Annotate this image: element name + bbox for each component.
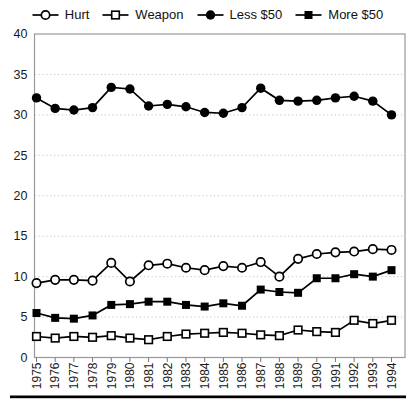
series-less-50-point [163, 100, 172, 109]
series-less-50-point [181, 102, 190, 111]
series-hurt-point [88, 276, 96, 284]
series-weapon-point [201, 329, 209, 337]
series-more-50-point [219, 299, 227, 307]
series-less-50-point [69, 105, 78, 114]
x-tick-label: 1983 [179, 362, 193, 389]
series-more-50-point [275, 288, 283, 296]
series-less-50-point [107, 83, 116, 92]
series-weapon-point [388, 316, 396, 324]
series-more-50-point [313, 274, 321, 282]
x-tick-label: 1976 [48, 362, 62, 389]
series-less-50-point [275, 96, 284, 105]
series-hurt-point [331, 248, 339, 256]
x-tick-label: 1990 [310, 362, 324, 389]
series-more-50-point [388, 266, 396, 274]
series-hurt-point [350, 247, 358, 255]
series-hurt-point [238, 264, 246, 272]
series-hurt-point [182, 264, 190, 272]
series-more-50-point [126, 300, 134, 308]
series-weapon-point [145, 336, 153, 344]
x-tick-label: 1982 [161, 362, 175, 389]
series-more-50-point [294, 289, 302, 297]
x-tick-label: 1975 [30, 362, 44, 389]
series-hurt-point [32, 279, 40, 287]
x-tick-label: 1992 [347, 362, 361, 389]
series-weapon-point [238, 329, 246, 337]
series-more-50-point [51, 314, 59, 322]
y-tick-label: 35 [14, 68, 28, 82]
series-hurt-point [107, 259, 115, 267]
series-weapon-point [182, 330, 190, 338]
series-more-50-point [163, 298, 171, 306]
plot-area: 0510152025303540197519761977197819791980… [0, 0, 415, 404]
series-less-50-point [312, 96, 321, 105]
series-weapon-point [107, 332, 115, 340]
series-hurt-point [51, 276, 59, 284]
x-tick-label: 1986 [235, 362, 249, 389]
series-more-50-point [331, 274, 339, 282]
x-tick-label: 1987 [254, 362, 268, 389]
x-tick-label: 1989 [291, 362, 305, 389]
series-hurt-point [144, 261, 152, 269]
x-tick-label: 1977 [67, 362, 81, 389]
series-weapon-point [126, 334, 134, 342]
y-tick-label: 40 [14, 27, 28, 41]
series-less-50-point [237, 103, 246, 112]
series-hurt-point [294, 255, 302, 263]
x-tick-label: 1984 [198, 362, 212, 389]
series-weapon-point [332, 329, 340, 337]
series-less-50-point [125, 84, 134, 93]
series-more-50-point [369, 273, 377, 281]
series-hurt-point [163, 259, 171, 267]
series-more-50-point [107, 301, 115, 309]
series-less-50-point [88, 103, 97, 112]
x-tick-label: 1993 [366, 362, 380, 389]
y-tick-label: 25 [14, 149, 28, 163]
x-tick-label: 1988 [273, 362, 287, 389]
series-hurt-point [70, 276, 78, 284]
series-weapon-point [220, 329, 228, 337]
line-chart-figure: Hurt Weapon Less $50 More $50 0510152025… [0, 0, 415, 404]
series-weapon-point [350, 316, 358, 324]
series-more-50-point [70, 315, 78, 323]
x-tick-label: 1981 [142, 362, 156, 389]
series-weapon-point [369, 320, 377, 328]
x-tick-label: 1994 [385, 362, 399, 389]
series-less-50-point [144, 101, 153, 110]
series-more-50-point [89, 311, 97, 319]
series-less-50-point [293, 96, 302, 105]
series-hurt-point [387, 246, 395, 254]
series-less-50-point [331, 93, 340, 102]
series-weapon-point [257, 331, 265, 339]
series-hurt-point [257, 258, 265, 266]
series-hurt-point [369, 245, 377, 253]
bottom-rule [10, 396, 406, 399]
series-less-50-point [32, 93, 41, 102]
series-weapon-point [51, 334, 59, 342]
y-tick-label: 10 [14, 270, 28, 284]
series-weapon-point [294, 326, 302, 334]
x-tick-label: 1980 [123, 362, 137, 389]
series-less-50-point [50, 104, 59, 113]
series-weapon-point [276, 332, 284, 340]
series-more-50-point [33, 309, 41, 317]
x-tick-label: 1985 [217, 362, 231, 389]
series-less-50-point [256, 83, 265, 92]
series-hurt-point [313, 250, 321, 258]
y-tick-label: 0 [21, 351, 28, 365]
series-less-50-point [349, 92, 358, 101]
series-more-50-point [201, 303, 209, 311]
series-less-50-point [200, 108, 209, 117]
y-tick-label: 20 [14, 189, 28, 203]
series-hurt-point [219, 262, 227, 270]
series-more-50-point [182, 301, 190, 309]
y-tick-label: 30 [14, 108, 28, 122]
series-weapon-point [163, 333, 171, 341]
series-more-50-point [238, 302, 246, 310]
series-weapon-point [313, 328, 321, 336]
series-hurt-point [126, 277, 134, 285]
series-weapon-point [89, 333, 97, 341]
series-less-50-point [387, 110, 396, 119]
series-hurt-point [275, 272, 283, 280]
series-less-50-point [219, 109, 228, 118]
